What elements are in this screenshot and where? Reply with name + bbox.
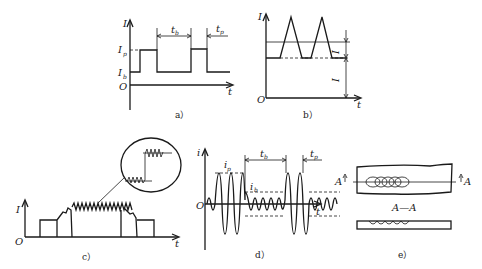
svg-text:t: t	[316, 206, 321, 217]
svg-text:t: t	[175, 238, 180, 249]
ip-label: I	[330, 49, 341, 55]
plate-plan-view	[357, 164, 452, 194]
svg-text:p: p	[220, 28, 224, 36]
magnified-wave	[127, 149, 163, 183]
section-marker-left: A	[334, 176, 342, 187]
svg-text:t: t	[357, 99, 362, 110]
caption-b: b）	[303, 110, 318, 120]
svg-text:b: b	[254, 186, 258, 193]
section-marker-right: A	[463, 176, 471, 187]
figure-canvas: I I p I b O t t b t p a） I O t I I b）	[0, 0, 482, 269]
panel-c: I O t c）	[15, 138, 181, 262]
caption-e: e）	[398, 250, 412, 260]
caption-c: c）	[82, 252, 96, 262]
svg-text:I: I	[15, 204, 21, 215]
caption-d: d）	[255, 250, 270, 260]
x-axis-label: t	[228, 86, 233, 97]
ib-label: i	[250, 181, 253, 192]
magnifier-leader	[98, 177, 125, 203]
panel-a: I I p I b O t t b t p a）	[117, 18, 233, 120]
origin-label: O	[119, 81, 127, 92]
panel-b: I O t I I b）	[257, 11, 362, 120]
section-label: A—A	[391, 202, 416, 213]
stepped-pulse-wave	[40, 203, 154, 237]
cross-section-view	[357, 221, 451, 229]
svg-text:b: b	[123, 73, 127, 80]
caption-a: a）	[175, 110, 189, 120]
ib-label: I	[330, 77, 341, 83]
magnified-detail-circle	[121, 138, 181, 192]
svg-text:b: b	[264, 153, 268, 160]
svg-text:I: I	[257, 11, 263, 22]
panel-e: A A A—A e）	[334, 164, 471, 260]
y-axis-label: I	[122, 18, 128, 29]
svg-text:O: O	[15, 236, 23, 247]
svg-text:O: O	[196, 200, 204, 211]
svg-text:p: p	[123, 50, 127, 58]
svg-text:i: i	[197, 147, 200, 158]
rect-pulse-wave	[130, 49, 230, 72]
panel-d: i O t i p i b t b t p d）	[196, 147, 340, 260]
svg-text:p: p	[227, 165, 231, 173]
svg-text:p: p	[314, 153, 318, 161]
svg-text:b: b	[175, 29, 179, 36]
svg-text:O: O	[257, 94, 265, 105]
